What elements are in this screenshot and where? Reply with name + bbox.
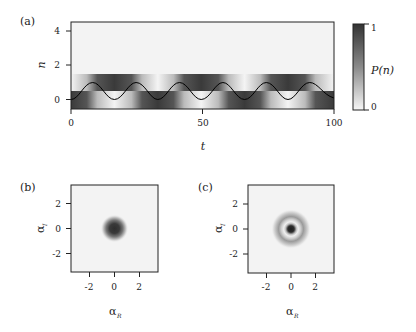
ytick-label: 2	[55, 199, 61, 209]
ytick-label: 2	[232, 199, 238, 209]
ytick-label: 0	[55, 224, 61, 234]
x-axis-title-a: t	[201, 140, 206, 153]
xtick-label: 0	[111, 282, 117, 292]
y-axis-title-a: n	[35, 61, 48, 68]
xtick-label: 2	[312, 282, 318, 292]
gaussian-blob	[101, 215, 129, 243]
colorbar: 1 0 P(n)	[353, 23, 394, 112]
svg-text:I: I	[41, 223, 48, 227]
svg-text:R: R	[116, 312, 122, 319]
y-axis-title-c: α I	[212, 223, 226, 233]
x-axis-a	[71, 109, 334, 114]
y-axis-title-b: α I	[34, 223, 48, 233]
colorbar-title: P(n)	[370, 64, 394, 77]
xtick-label: 100	[325, 118, 342, 128]
panel-c-label: (c)	[198, 181, 213, 194]
panel-b-label: (b)	[20, 181, 36, 194]
svg-text:α: α	[109, 305, 117, 318]
xtick-label: -2	[85, 282, 94, 292]
x-axis-b	[90, 272, 140, 277]
ring-blob	[271, 209, 311, 249]
heatmap-row-n1	[71, 74, 334, 91]
xtick-label: -2	[262, 282, 271, 292]
ytick-label: 0	[232, 224, 238, 234]
y-axis-b	[66, 204, 71, 254]
xtick-label: 50	[197, 118, 209, 128]
panel-c: (c) 2 0 -2 α I -2 0 2 α R	[198, 181, 334, 319]
ytick-label: 2	[54, 60, 60, 70]
heatmap-row-n0	[71, 91, 334, 109]
xtick-label: 0	[288, 282, 294, 292]
x-axis-title-c: α R	[286, 305, 299, 319]
ytick-label: -2	[52, 249, 61, 259]
svg-text:R: R	[293, 312, 299, 319]
y-axis-c	[243, 204, 248, 254]
panel-a: (a) 4 2 0 n 0 50 100 t	[20, 15, 394, 153]
x-axis-title-b: α R	[109, 305, 122, 319]
xtick-label: 0	[68, 118, 74, 128]
xtick-label: 2	[136, 282, 142, 292]
colorbar-max-label: 1	[371, 23, 377, 33]
svg-text:I: I	[219, 223, 226, 227]
panel-b: (b) 2 0 -2 α I -2 0 2 α R	[20, 181, 158, 319]
colorbar-gradient	[353, 24, 364, 110]
colorbar-min-label: 0	[371, 102, 377, 112]
ytick-label: -2	[229, 249, 238, 259]
y-axis-a	[66, 31, 71, 100]
figure: (a) 4 2 0 n 0 50 100 t	[0, 0, 416, 332]
x-axis-c	[267, 273, 316, 278]
ytick-label: 4	[54, 26, 60, 36]
svg-text:α: α	[286, 305, 294, 318]
ytick-label: 0	[54, 95, 60, 105]
panel-a-label: (a)	[20, 15, 35, 28]
